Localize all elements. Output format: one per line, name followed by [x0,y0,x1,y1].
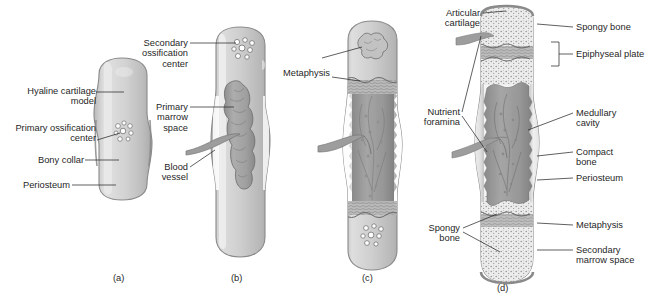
panel-letter-a: (a) [113,273,124,283]
label-hyaline-cartilage-model: Hyaline cartilage model [8,86,96,107]
bone-diagram-c [318,21,406,270]
label-primary-marrow-space: Primary marrow space [134,102,188,133]
label-metaphysis-d: Metaphysis [576,220,646,230]
label-primary-ossification-center: Primary ossification center [2,123,96,144]
label-blood-vessel: Blood vessel [144,162,188,183]
label-periosteum-a: Periosteum [10,180,70,190]
label-medullary-cavity: Medullary cavity [576,108,646,129]
endochondral-ossification-figure: Hyaline cartilage model Primary ossifica… [0,0,668,298]
label-spongy-bone-right: Spongy bone [576,22,666,32]
figure-canvas [0,0,668,298]
label-metaphysis-c: Metaphysis [278,68,330,78]
panel-letter-c: (c) [362,273,373,283]
label-compact-bone: Compact bone [576,147,642,168]
bone-diagram-d [452,6,573,284]
bone-diagram-b [186,27,270,257]
label-bony-collar: Bony collar [12,155,84,165]
panel-letter-b: (b) [231,273,242,283]
label-secondary-marrow-space: Secondary marrow space [576,245,668,266]
label-nutrient-foramina: Nutrient foramina [406,107,460,128]
label-articular-cartilage: Articular cartilage [418,8,480,29]
label-epiphyseal-plate: Epiphyseal plate [576,49,668,59]
label-periosteum-d: Periosteum [576,173,646,183]
label-spongy-bone-left: Spongy bone [414,223,460,244]
panel-letter-d: (d) [497,283,508,293]
label-secondary-ossification-center: Secondary ossification center [124,38,188,69]
